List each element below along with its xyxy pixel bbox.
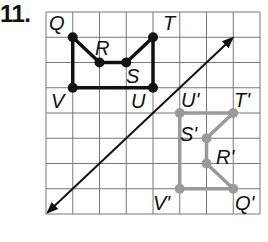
vertex-point-R-prime <box>202 159 212 169</box>
label-V: V <box>51 90 66 112</box>
label-V-prime: V' <box>153 192 171 214</box>
vertex-point-U <box>148 83 158 93</box>
label-U-prime: U' <box>181 89 200 111</box>
label-Q: Q <box>49 12 65 34</box>
reflection-diagram: Q R S T U V U' T' S' R' Q' V' <box>0 0 268 242</box>
vertex-point-V <box>68 83 78 93</box>
vertex-point-R <box>95 58 105 68</box>
label-Q-prime: Q' <box>235 192 256 214</box>
vertex-point-S-prime <box>202 133 212 143</box>
label-T: T <box>163 12 177 34</box>
vertex-point-V-prime <box>175 184 185 194</box>
label-T-prime: T' <box>234 89 251 111</box>
label-R: R <box>95 37 109 59</box>
label-S-prime: S' <box>180 123 198 145</box>
label-S: S <box>126 65 140 87</box>
label-R-prime: R' <box>216 146 235 168</box>
vertex-point-T <box>148 32 158 42</box>
reflection-line <box>48 38 232 212</box>
label-U: U <box>131 90 146 112</box>
vertex-point-Q <box>68 32 78 42</box>
